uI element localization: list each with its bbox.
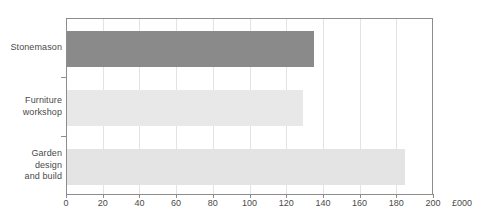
x-axis-unit-label: £000 [452, 198, 472, 208]
x-tick-label-0: 0 [51, 198, 81, 208]
x-tick-label-20: 20 [88, 198, 118, 208]
category-label-furniture-workshop: Furnitureworkshop [0, 95, 62, 118]
category-label-stonemason: Stonemason [0, 42, 62, 54]
y-axis-tick [61, 136, 66, 137]
category-label-line: workshop [0, 107, 62, 119]
bar-chart: StonemasonFurnitureworkshopGardendesigna… [0, 0, 495, 224]
category-label-line: Furniture [0, 95, 62, 107]
category-label-line: and build [0, 171, 62, 183]
category-label-line: design [0, 160, 62, 172]
plot-area [66, 18, 433, 194]
x-tick-label-160: 160 [345, 198, 375, 208]
x-tick-label-40: 40 [124, 198, 154, 208]
bar-garden-design[interactable] [66, 149, 405, 185]
bar-furniture-workshop[interactable] [66, 90, 303, 126]
category-label-garden-design: Gardendesignand build [0, 148, 62, 183]
x-tick-label-120: 120 [271, 198, 301, 208]
category-label-line: Garden [0, 148, 62, 160]
bar-stonemason[interactable] [66, 31, 314, 67]
category-axis-labels: StonemasonFurnitureworkshopGardendesigna… [0, 0, 62, 224]
x-tick-label-60: 60 [161, 198, 191, 208]
x-tick-label-100: 100 [235, 198, 265, 208]
x-tick-label-140: 140 [308, 198, 338, 208]
category-label-line: Stonemason [0, 42, 62, 54]
x-tick-label-180: 180 [381, 198, 411, 208]
x-tick-label-80: 80 [198, 198, 228, 208]
y-axis-tick [61, 77, 66, 78]
x-tick-label-200: 200 [418, 198, 448, 208]
y-axis-line [66, 18, 67, 195]
